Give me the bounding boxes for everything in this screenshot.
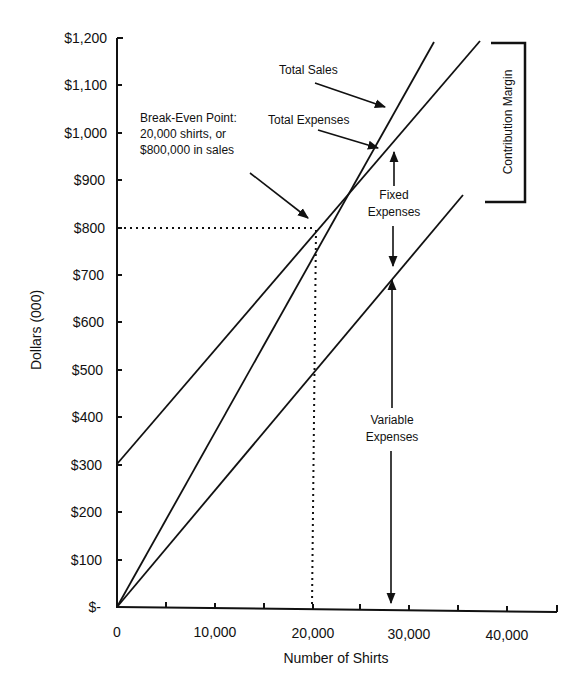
svg-text:Expenses: Expenses <box>368 205 421 219</box>
x-tick-10000: 10,000 <box>194 624 237 640</box>
y-axis-title: Dollars (000) <box>28 290 44 370</box>
y-tick-900: $900 <box>74 172 105 188</box>
break-even-chart: $1,200 $1,100 $1,000 $900 $800 $700 $600… <box>0 0 587 695</box>
y-tick-700: $700 <box>73 267 104 283</box>
total-expenses-line <box>117 41 480 464</box>
y-tick-200: $200 <box>71 504 102 520</box>
y-tick-600: $600 <box>73 314 104 330</box>
svg-text:Variable: Variable <box>370 413 413 427</box>
svg-text:$800,000 in sales: $800,000 in sales <box>140 143 234 157</box>
y-axis <box>117 38 123 608</box>
y-tick-0: $- <box>89 599 102 615</box>
break-even-label: Break-Even Point: 20,000 shirts, or $800… <box>140 111 237 157</box>
contribution-margin-label: Contribution Margin <box>501 70 515 175</box>
x-tick-40000: 40,000 <box>486 627 529 643</box>
svg-text:Break-Even Point:: Break-Even Point: <box>140 111 237 125</box>
y-tick-1200: $1,200 <box>64 30 107 46</box>
y-tick-400: $400 <box>72 409 103 425</box>
y-tick-500: $500 <box>72 362 103 378</box>
y-tick-labels: $1,200 $1,100 $1,000 $900 $800 $700 $600… <box>64 30 107 615</box>
total-sales-label: Total Sales <box>279 63 338 77</box>
x-axis-title: Number of Shirts <box>283 650 388 666</box>
y-tick-300: $300 <box>71 457 102 473</box>
total-expenses-label: Total Expenses <box>268 113 349 127</box>
x-tick-labels: 0 10,000 20,000 30,000 40,000 <box>113 624 529 643</box>
x-axis <box>117 602 557 612</box>
y-tick-800: $800 <box>74 220 105 236</box>
y-tick-100: $100 <box>71 552 102 568</box>
x-tick-0: 0 <box>113 624 121 640</box>
break-even-arrow <box>250 173 308 218</box>
x-tick-30000: 30,000 <box>388 626 431 642</box>
break-even-guides <box>118 228 316 606</box>
total-expenses-arrow <box>318 130 378 148</box>
variable-expenses-label: Variable Expenses <box>366 413 419 444</box>
svg-text:Expenses: Expenses <box>366 430 419 444</box>
variable-expenses-line <box>117 195 463 607</box>
svg-text:Fixed: Fixed <box>379 188 408 202</box>
y-tick-1100: $1,100 <box>64 77 107 93</box>
fixed-expenses-label: Fixed Expenses <box>368 188 421 219</box>
total-sales-arrow <box>315 83 385 107</box>
x-tick-20000: 20,000 <box>292 625 335 641</box>
y-tick-1000: $1,000 <box>64 125 107 141</box>
svg-text:20,000 shirts, or: 20,000 shirts, or <box>140 127 226 141</box>
